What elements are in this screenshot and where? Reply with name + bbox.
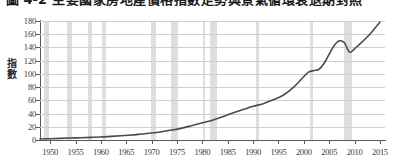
x-axis-tick-mark [380,140,381,144]
y-axis-tick-mark [36,140,40,141]
x-axis-tick-label: 1965 [118,147,134,157]
x-axis-tick-label: 1980 [194,147,210,157]
y-axis-tick-mark [36,21,40,22]
x-axis-tick-label: 1995 [271,147,287,157]
x-axis-tick-mark [76,140,77,144]
x-axis-tick-mark [253,140,254,144]
y-axis-tick-mark [36,47,40,48]
x-axis-tick-mark [126,140,127,144]
y-axis-tick-label: 180 [2,16,36,26]
x-axis-tick-mark [329,140,330,144]
x-axis-tick-label: 2005 [321,147,337,157]
y-axis-tick-mark [36,114,40,115]
y-axis-tick-mark [36,100,40,101]
x-axis-tick-mark [228,140,229,144]
y-axis-tick-mark [36,127,40,128]
y-axis-tick-label: 80 [2,82,36,92]
x-axis-tick-mark [355,140,356,144]
y-axis-tick-label: 40 [2,109,36,119]
y-axis-tick-mark [36,87,40,88]
x-axis-tick-mark [304,140,305,144]
x-axis-tick-label: 2000 [296,147,312,157]
figure-number: 圖 4-2 [6,0,47,6]
y-axis-tick-label: 120 [2,56,36,66]
y-axis-tick-label: 0 [2,135,36,145]
y-axis-tick-label: 100 [2,69,36,79]
x-axis-tick-label: 2010 [347,147,363,157]
y-axis-tick-label: 20 [2,122,36,132]
figure-title: 主要國家房地產價格指數走勢與景氣循環衰退期對照 [52,0,363,6]
figure-container: 圖 4-2 主要國家房地產價格指數走勢與景氣循環衰退期對照 指數 0204060… [0,0,403,167]
y-axis-tick-label: 140 [2,42,36,52]
x-axis-tick-mark [50,140,51,144]
x-axis-tick-mark [177,140,178,144]
y-axis-tick-label: 160 [2,29,36,39]
x-axis-line [40,140,386,141]
x-axis-tick-mark [152,140,153,144]
y-axis-tick-mark [36,74,40,75]
figure-title-strip: 圖 4-2 主要國家房地產價格指數走勢與景氣循環衰退期對照 [0,0,403,6]
x-axis-tick-label: 1990 [245,147,261,157]
series-path-index [40,22,380,139]
y-axis-tick-mark [36,61,40,62]
x-axis-tick-label: 1970 [144,147,160,157]
x-axis-tick-label: 1960 [93,147,109,157]
x-axis-tick-mark [202,140,203,144]
series-line-chart [40,21,385,140]
plot-area [40,21,385,140]
y-axis-tick-label: 60 [2,95,36,105]
x-axis-tick-mark [278,140,279,144]
x-axis-tick-label: 1975 [169,147,185,157]
x-axis-tick-mark [101,140,102,144]
x-axis-tick-label: 2015 [372,147,388,157]
x-axis-tick-label: 1985 [220,147,236,157]
y-axis-tick-mark [36,34,40,35]
x-axis-tick-label: 1950 [42,147,58,157]
x-axis-tick-label: 1955 [68,147,84,157]
